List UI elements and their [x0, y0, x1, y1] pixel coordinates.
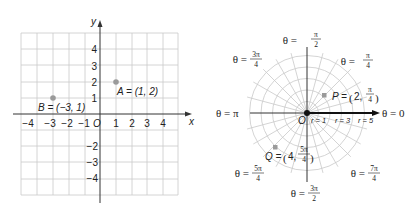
svg-text:4: 4 [160, 118, 166, 129]
r1-label: r = 1 [311, 116, 326, 125]
y-axis-label: y [90, 16, 97, 27]
svg-text:θ =: θ = [283, 34, 297, 46]
svg-text:1: 1 [91, 93, 97, 104]
svg-text:2: 2 [314, 40, 318, 49]
svg-text:Q =: Q = [265, 151, 282, 162]
svg-text:P =: P = [332, 91, 347, 102]
svg-text:4: 4 [256, 174, 260, 183]
svg-text:−2: −2 [87, 141, 99, 152]
svg-text:−3: −3 [87, 157, 99, 168]
r3-label: r = 3 [335, 116, 351, 125]
svg-text:θ =: θ = [235, 167, 249, 179]
svg-text:−4: −4 [87, 173, 99, 184]
theta-pi2-label: θ = π 2 [283, 30, 321, 49]
r5-label: r = 5 [358, 116, 374, 125]
polar-origin-label: O [298, 115, 306, 126]
theta-3pi4-label: θ = 3π 4 [233, 50, 262, 69]
svg-text:(: ( [283, 152, 287, 165]
svg-text:2: 2 [91, 77, 97, 88]
theta-0-label: θ = 0 [382, 107, 405, 119]
svg-text:5π: 5π [300, 145, 308, 154]
theta-3pi2-label: θ = 3π 2 [291, 184, 320, 203]
svg-text:7π: 7π [370, 164, 378, 173]
svg-text:−3: −3 [44, 118, 56, 129]
svg-text:3: 3 [91, 61, 97, 72]
svg-text:2: 2 [312, 194, 316, 203]
svg-text:π: π [368, 85, 372, 94]
figure-canvas: x y O −4 −3 −2 −1 1 2 3 4 4 3 2 1 −2 −3 … [0, 0, 417, 222]
svg-text:θ =: θ = [233, 53, 247, 65]
svg-text:): ) [310, 152, 314, 165]
svg-text:(: ( [349, 92, 353, 105]
svg-text:4: 4 [254, 60, 258, 69]
svg-text:3π: 3π [310, 184, 318, 193]
svg-text:θ =: θ = [291, 187, 305, 199]
point-a [113, 79, 119, 85]
theta-pi-label: θ = π [216, 107, 239, 119]
svg-text:−4: −4 [22, 118, 34, 129]
point-p [322, 93, 327, 98]
theta-5pi4-label: θ = 5π 4 [235, 164, 264, 183]
point-q [273, 145, 278, 150]
svg-text:2: 2 [129, 118, 135, 129]
svg-text:θ =: θ = [341, 55, 355, 67]
rect-origin-label: O [93, 118, 101, 129]
point-a-label: A = (1, 2) [116, 86, 158, 97]
x-axis-label: x [188, 116, 195, 127]
svg-text:4,: 4, [288, 151, 296, 162]
point-b-label: B = (−3, 1) [38, 102, 85, 113]
svg-text:−1: −1 [78, 118, 90, 129]
svg-text:4: 4 [366, 61, 370, 70]
point-b [50, 95, 56, 101]
svg-text:1: 1 [113, 118, 119, 129]
point-p-label: P = ( 2, π 4 ) [332, 85, 379, 105]
svg-text:π: π [366, 51, 370, 60]
theta-pi4-label: θ = π 4 [341, 51, 373, 70]
svg-text:2,: 2, [354, 91, 362, 102]
svg-text:): ) [375, 92, 379, 105]
svg-text:4: 4 [91, 44, 97, 55]
theta-7pi4-label: θ = 7π 4 [351, 164, 380, 183]
y-axis-arrow-icon [98, 20, 103, 27]
svg-text:−2: −2 [61, 118, 73, 129]
svg-text:5π: 5π [254, 164, 262, 173]
svg-text:4: 4 [368, 95, 372, 104]
svg-text:π: π [314, 30, 318, 39]
svg-text:3π: 3π [252, 50, 260, 59]
svg-text:4: 4 [302, 155, 306, 164]
svg-text:4: 4 [372, 174, 376, 183]
rect-axes [13, 25, 188, 203]
coordinate-figure: x y O −4 −3 −2 −1 1 2 3 4 4 3 2 1 −2 −3 … [0, 0, 417, 222]
svg-text:θ =: θ = [351, 167, 365, 179]
svg-text:3: 3 [144, 118, 150, 129]
